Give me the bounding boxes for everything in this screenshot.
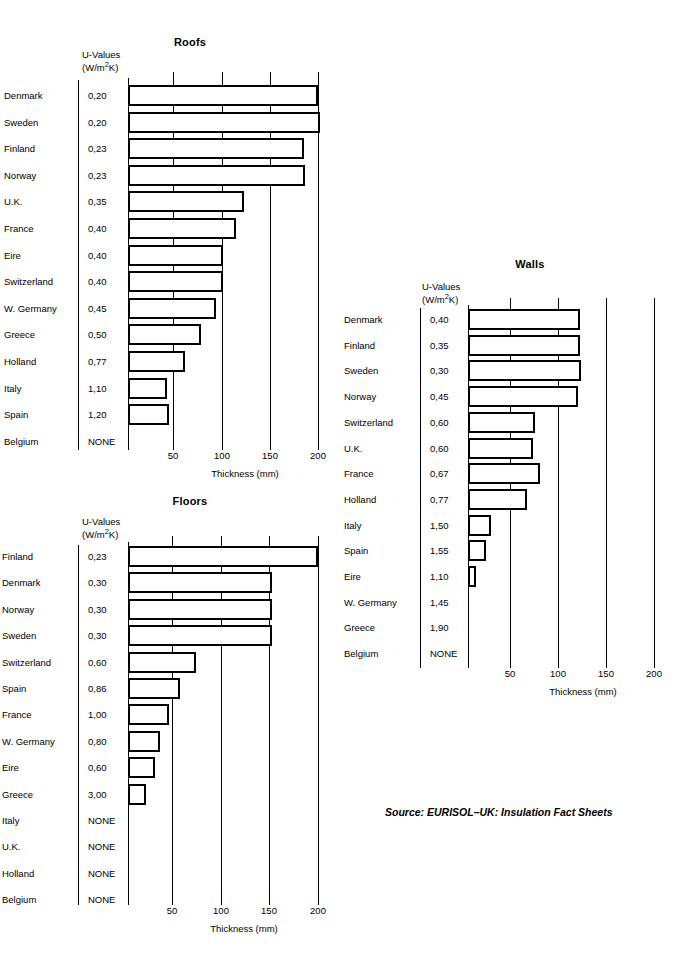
chart-row: BelgiumNONE: [0, 428, 340, 455]
u-value: 0,60: [430, 409, 449, 436]
chart-row: W. Germany0,45: [0, 295, 340, 322]
u-value: 0,67: [430, 460, 449, 487]
country-label: Switzerland: [4, 268, 53, 295]
chart-row: Greece1,90: [340, 614, 680, 641]
chart-floors-axis-title: Thickness (mm): [210, 923, 278, 934]
chart-row: Finland0,23: [0, 135, 340, 162]
country-label: Holland: [4, 348, 36, 375]
country-label: Greece: [2, 781, 33, 808]
chart-row: Spain0,86: [0, 675, 340, 702]
country-label: France: [2, 701, 32, 728]
country-label: Norway: [344, 383, 376, 410]
chart-roofs-uvalues-header: U-Values (W/m2K): [82, 48, 120, 74]
u-value: 0,80: [88, 728, 107, 755]
u-value: 0,40: [88, 242, 107, 269]
country-label: Eire: [344, 563, 361, 590]
thickness-bar: [128, 572, 272, 593]
thickness-bar: [128, 731, 160, 752]
u-value: 0,30: [88, 622, 107, 649]
country-label: W. Germany: [4, 295, 57, 322]
u-value: 0,50: [88, 321, 107, 348]
chart-row: Switzerland0,60: [340, 409, 680, 436]
country-label: Holland: [2, 860, 34, 887]
country-label: Greece: [4, 321, 35, 348]
thickness-bar: [128, 112, 320, 133]
chart-row: W. Germany0,80: [0, 728, 340, 755]
uvalues-label-line1: U-Values: [82, 516, 120, 527]
country-label: Switzerland: [344, 409, 393, 436]
thickness-bar: [128, 165, 305, 186]
thickness-bar: [128, 245, 223, 266]
chart-row: Spain1,20: [0, 401, 340, 428]
chart-walls-tick-100: 100: [550, 668, 566, 679]
chart-walls-tick-200: 200: [646, 668, 662, 679]
chart-walls-tick-150: 150: [598, 668, 614, 679]
chart-row: Norway0,30: [0, 596, 340, 623]
country-label: Eire: [4, 242, 21, 269]
u-value: 0,30: [430, 357, 449, 384]
chart-row: France0,67: [340, 460, 680, 487]
country-label: Italy: [344, 512, 361, 539]
thickness-bar: [128, 191, 244, 212]
chart-row: Greece3,00: [0, 781, 340, 808]
chart-row: W. Germany1,45: [340, 589, 680, 616]
chart-row: Finland0,23: [0, 543, 340, 570]
chart-row: Switzerland0,40: [0, 268, 340, 295]
chart-roofs-title: Roofs: [150, 36, 230, 48]
thickness-bar: [128, 757, 155, 778]
country-label: Sweden: [2, 622, 36, 649]
u-value: 0,35: [88, 188, 107, 215]
u-value: NONE: [88, 428, 115, 455]
thickness-bar: [468, 489, 527, 510]
chart-floors: Floors U-Values (W/m2K) 50 100 150 200 T…: [0, 490, 340, 950]
uvalues-label-line2: (W/m2K): [82, 62, 118, 73]
country-label: Sweden: [344, 357, 378, 384]
u-value: 0,45: [88, 295, 107, 322]
uvalues-label-line1: U-Values: [82, 49, 120, 60]
country-label: Norway: [4, 162, 36, 189]
chart-row: Denmark0,20: [0, 82, 340, 109]
country-label: U.K.: [344, 435, 362, 462]
chart-row: Switzerland0,60: [0, 649, 340, 676]
chart-walls-tick-50: 50: [505, 668, 516, 679]
country-label: U.K.: [4, 188, 22, 215]
u-value: 3,00: [88, 781, 107, 808]
chart-roofs-axis-title: Thickness (mm): [211, 468, 279, 479]
country-label: France: [344, 460, 374, 487]
u-value: 0,30: [88, 596, 107, 623]
u-value: NONE: [88, 807, 115, 834]
uvalues-label-line2: (W/m2K): [422, 294, 458, 305]
country-label: France: [4, 215, 34, 242]
country-label: W. Germany: [344, 589, 397, 616]
chart-row: Holland0,77: [0, 348, 340, 375]
thickness-bar: [468, 386, 578, 407]
thickness-bar: [468, 335, 580, 356]
country-label: Spain: [4, 401, 28, 428]
uvalues-label-line2: (W/m2K): [82, 529, 118, 540]
country-label: U.K.: [2, 833, 20, 860]
u-value: 0,40: [430, 306, 449, 333]
thickness-bar: [468, 309, 580, 330]
u-value: 0,40: [88, 215, 107, 242]
country-label: Sweden: [4, 109, 38, 136]
country-label: Spain: [2, 675, 26, 702]
u-value: NONE: [88, 833, 115, 860]
u-value: NONE: [88, 860, 115, 887]
country-label: Denmark: [4, 82, 43, 109]
chart-row: U.K.0,35: [0, 188, 340, 215]
u-value: 0,60: [88, 754, 107, 781]
thickness-bar: [468, 360, 581, 381]
chart-row: Denmark0,30: [0, 569, 340, 596]
chart-walls-title: Walls: [490, 258, 570, 270]
thickness-bar: [128, 85, 318, 106]
chart-row: Italy1,50: [340, 512, 680, 539]
chart-row: Sweden0,20: [0, 109, 340, 136]
thickness-bar: [128, 625, 272, 646]
thickness-bar: [128, 138, 304, 159]
chart-roofs: Roofs U-Values (W/m2K) 50 100 150 200 Th…: [0, 0, 340, 490]
chart-row: HollandNONE: [0, 860, 340, 887]
thickness-bar: [128, 351, 185, 372]
u-value: 0,45: [430, 383, 449, 410]
thickness-bar: [128, 298, 216, 319]
thickness-bar: [468, 463, 540, 484]
